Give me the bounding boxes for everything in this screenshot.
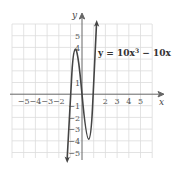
svg-text:4: 4 (126, 97, 131, 106)
svg-text:2: 2 (103, 97, 108, 106)
y-axis-label: y (71, 10, 78, 20)
cubic-function-graph: x y −5 −4 −3 −2 2 3 4 5 5 4 1 −1 −2 −3 −… (0, 0, 174, 174)
svg-text:−5: −5 (18, 97, 30, 106)
svg-text:3: 3 (115, 97, 120, 106)
svg-text:4: 4 (75, 44, 80, 53)
equation-label: y = 10x3 − 10x (97, 47, 171, 59)
svg-text:−2: −2 (53, 97, 65, 106)
svg-text:−3: −3 (68, 125, 80, 134)
svg-text:5: 5 (75, 32, 80, 41)
x-axis-label: x (159, 97, 164, 107)
svg-text:5: 5 (138, 97, 143, 106)
x-tick-labels: −5 −4 −3 −2 2 3 4 5 (18, 97, 143, 106)
svg-text:−5: −5 (68, 149, 80, 158)
svg-text:1: 1 (75, 79, 80, 88)
svg-text:−3: −3 (41, 97, 53, 106)
svg-text:−4: −4 (68, 137, 80, 146)
svg-text:−4: −4 (30, 97, 42, 106)
